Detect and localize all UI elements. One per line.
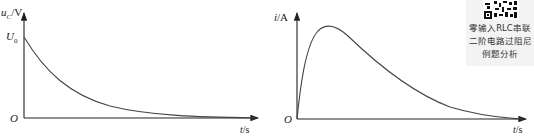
right-origin-label: O bbox=[284, 113, 292, 125]
u0-var: U bbox=[6, 30, 14, 42]
x-unit: /s bbox=[243, 124, 250, 135]
left-origin-label: O bbox=[10, 112, 18, 124]
right-x-axis-label: t/s bbox=[513, 124, 522, 135]
uc-decay-curve bbox=[24, 37, 255, 118]
left-y-axis-label: uC/V bbox=[1, 6, 22, 21]
left-chart bbox=[24, 13, 258, 118]
right-y-axis-label: i/A bbox=[274, 11, 288, 23]
caption-line-1: 零输入RLC串联 bbox=[466, 22, 534, 35]
charts-canvas bbox=[0, 0, 534, 140]
qr-code-icon[interactable] bbox=[483, 0, 519, 20]
x-unit: /s bbox=[516, 124, 523, 135]
y-unit: /A bbox=[277, 11, 288, 23]
left-x-axis-label: t/s bbox=[240, 124, 249, 135]
caption-line-2: 二阶电路过阻尼 bbox=[466, 35, 534, 48]
qr-caption: 零输入RLC串联 二阶电路过阻尼 例题分析 bbox=[466, 22, 534, 61]
u0-tick-label: U0 bbox=[6, 30, 17, 45]
qr-card[interactable]: 零输入RLC串联 二阶电路过阻尼 例题分析 bbox=[466, 0, 534, 66]
y-unit: /V bbox=[11, 6, 22, 18]
u0-sub: 0 bbox=[14, 37, 18, 45]
caption-line-3: 例题分析 bbox=[466, 48, 534, 61]
